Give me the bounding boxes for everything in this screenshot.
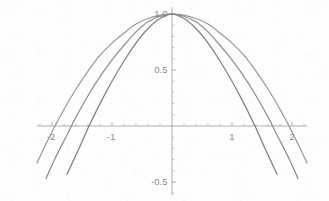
y-tick-label: -0.5 (151, 176, 167, 187)
cosine-curves-plot: -2-1121.00.5-0.5 (0, 0, 329, 201)
plot-figure: -2-1121.00.5-0.5 (0, 0, 329, 201)
y-tick-label: 1.0 (154, 8, 167, 19)
x-tick-label: -1 (107, 131, 115, 142)
axes (37, 7, 307, 195)
x-tick-label: 1 (229, 131, 234, 142)
x-tick-label: 2 (289, 131, 294, 142)
x-tick-label: -2 (47, 131, 55, 142)
y-tick-label: 0.5 (154, 64, 167, 75)
